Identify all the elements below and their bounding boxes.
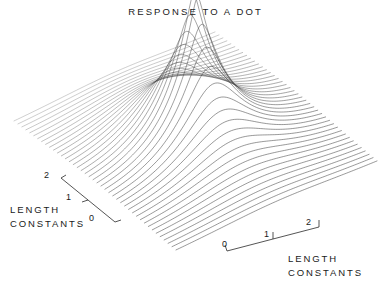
left-axis-tick-2: 2: [44, 170, 49, 180]
right-axis-tick-0: 0: [222, 239, 227, 249]
right-axis-label-line1: LENGTH: [288, 253, 338, 264]
surface-profile-line: [22, 38, 223, 127]
surface-plot-svg: [0, 0, 389, 288]
left-axis-tick-0: 0: [89, 213, 94, 223]
surface-profile-line: [133, 124, 334, 213]
left-axis-label: LENGTHCONSTANTS: [10, 203, 85, 230]
figure-canvas: RESPONSE TO A DOT 2 1 0 0 1 2 LENGTHCONS…: [0, 0, 389, 288]
surface-profile-line: [164, 151, 365, 240]
left-axis-label-line2: CONSTANTS: [10, 218, 85, 229]
right-axis-label-line2: CONSTANTS: [288, 267, 363, 278]
surface-profile-line: [144, 134, 345, 223]
surface-profile-line: [89, 15, 290, 177]
surface-profile-line: [152, 141, 353, 230]
surface-profile-line: [176, 161, 377, 250]
right-axis-label: LENGTHCONSTANTS: [288, 252, 363, 279]
surface-profile-line: [101, 24, 302, 186]
surface-profile-line: [172, 158, 373, 247]
page-title: RESPONSE TO A DOT: [0, 6, 389, 17]
right-axis-tick-1: 1: [264, 229, 269, 239]
surface-profile-line: [105, 47, 306, 189]
surface-profile-line: [85, 31, 286, 173]
surface-profile-line: [18, 35, 219, 124]
surface-profile-line: [160, 148, 361, 237]
right-axis-tick-2: 2: [306, 217, 311, 227]
left-axis-tick-1: 1: [66, 192, 71, 202]
surface-profile-line: [30, 44, 231, 133]
surface-profile-line: [38, 50, 239, 139]
surface-profile-line: [129, 120, 330, 209]
axis-lines-group: [61, 175, 319, 251]
right-axis-ticks: [225, 220, 319, 251]
surface-profile-line: [61, 67, 262, 156]
left-axis-label-line1: LENGTH: [10, 204, 60, 215]
